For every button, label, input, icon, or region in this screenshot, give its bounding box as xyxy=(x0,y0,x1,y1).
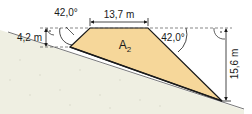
left-angle-arc xyxy=(60,28,72,45)
left-angle-label: 42,0° xyxy=(54,7,77,18)
embankment-diagram: 13,7 m 4,2 m 42,0° 42,0° 15,6 m A2 xyxy=(0,0,252,114)
right-right-angle-marker xyxy=(214,28,225,39)
right-angle-label: 42,0° xyxy=(161,32,184,43)
right-height-label: 15,6 m xyxy=(229,49,240,80)
left-height-label: 4,2 m xyxy=(17,32,42,43)
top-width-label: 13,7 m xyxy=(104,9,135,20)
